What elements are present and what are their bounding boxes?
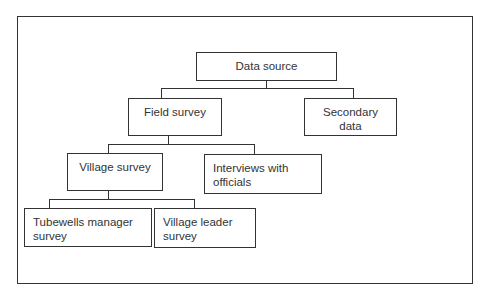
connector — [108, 144, 109, 153]
node-label-line-2: data — [305, 119, 396, 133]
connector — [161, 88, 162, 98]
node-label-line-2: officials — [213, 175, 321, 189]
node-village-survey: Village survey — [67, 153, 163, 191]
connector — [108, 144, 255, 145]
node-data-source: Data source — [196, 52, 337, 81]
node-label: Data source — [197, 59, 336, 73]
node-secondary-data: Secondary data — [304, 98, 397, 136]
node-label: Village survey — [68, 160, 162, 174]
node-interviews-officials: Interviews with officials — [204, 154, 322, 194]
node-field-survey: Field survey — [128, 98, 222, 136]
connector — [49, 199, 195, 200]
connector — [49, 199, 50, 208]
node-label-line-1: Interviews with — [213, 161, 321, 175]
connector — [168, 136, 169, 144]
node-label-line-2: survey — [33, 229, 151, 243]
node-label-line-2: survey — [163, 229, 255, 243]
connector — [194, 199, 195, 208]
node-label-line-1: Secondary — [305, 105, 396, 119]
node-tubewells-manager-survey: Tubewells manager survey — [24, 208, 152, 247]
connector — [161, 88, 354, 89]
node-village-leader-survey: Village leader survey — [154, 208, 256, 248]
connector — [254, 144, 255, 154]
node-label-line-1: Village leader — [163, 215, 255, 229]
connector — [353, 88, 354, 98]
node-label-line-1: Tubewells manager — [33, 215, 151, 229]
node-label: Field survey — [129, 105, 221, 119]
